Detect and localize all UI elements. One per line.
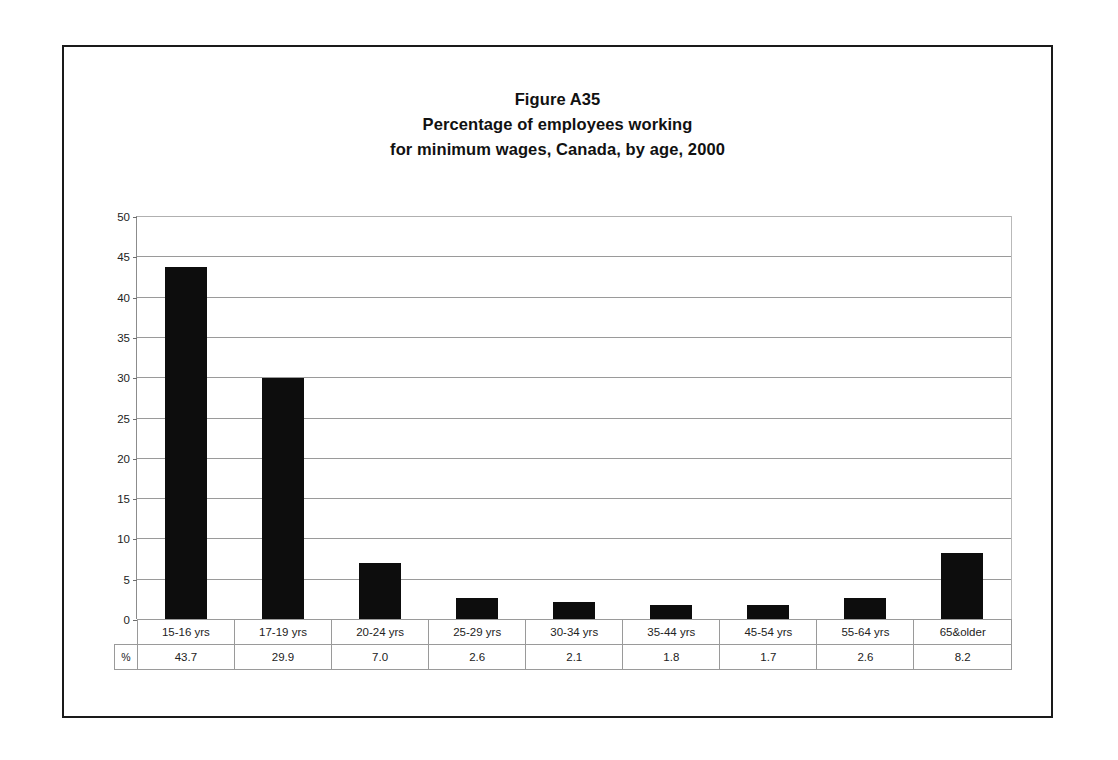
bar-slot-8: [914, 216, 1011, 619]
title-line-1: Figure A35: [64, 87, 1051, 112]
ytick-label-35: 35: [117, 332, 130, 344]
ytick-label-15: 15: [117, 493, 130, 505]
bar-slot-2: [331, 216, 428, 619]
bars-group: [137, 216, 1011, 619]
bar[interactable]: [941, 553, 983, 619]
title-line-3: for minimum wages, Canada, by age, 2000: [64, 137, 1051, 162]
bar-slot-6: [720, 216, 817, 619]
data-table: 15-16 yrs17-19 yrs20-24 yrs25-29 yrs30-3…: [114, 619, 1012, 670]
category-label-cell: 25-29 yrs: [429, 620, 526, 645]
bar[interactable]: [359, 563, 401, 619]
bar-slot-7: [817, 216, 914, 619]
bar-slot-1: [234, 216, 331, 619]
bar-slot-0: [137, 216, 234, 619]
plot-area: 05101520253035404550: [136, 216, 1012, 619]
value-cell: 29.9: [234, 645, 331, 670]
table-row-values: % 43.729.97.02.62.11.81.72.68.2: [115, 645, 1012, 670]
bar[interactable]: [747, 605, 789, 619]
category-label-cell: 65&older: [914, 620, 1012, 645]
category-label-cell: 15-16 yrs: [137, 620, 234, 645]
category-label-cell: 35-44 yrs: [623, 620, 720, 645]
bar[interactable]: [650, 605, 692, 620]
category-label-cell: 17-19 yrs: [234, 620, 331, 645]
value-cell: 2.6: [429, 645, 526, 670]
ytick-label-5: 5: [124, 574, 130, 586]
category-label-cell: 30-34 yrs: [526, 620, 623, 645]
ytick-label-30: 30: [117, 372, 130, 384]
chart-title: Figure A35 Percentage of employees worki…: [64, 87, 1051, 162]
value-cell: 8.2: [914, 645, 1012, 670]
table-corner-blank: [115, 620, 138, 645]
ytick-label-20: 20: [117, 453, 130, 465]
value-cell: 2.6: [817, 645, 914, 670]
category-label-cell: 45-54 yrs: [720, 620, 817, 645]
bar[interactable]: [553, 602, 595, 619]
ytick-label-50: 50: [117, 211, 130, 223]
value-cell: 2.1: [526, 645, 623, 670]
bar-slot-4: [525, 216, 622, 619]
ytick-label-10: 10: [117, 533, 130, 545]
value-cell: 7.0: [332, 645, 429, 670]
bar[interactable]: [844, 598, 886, 619]
figure-container: Figure A35 Percentage of employees worki…: [62, 45, 1053, 718]
bar[interactable]: [262, 378, 304, 619]
category-label-cell: 55-64 yrs: [817, 620, 914, 645]
value-cell: 1.7: [720, 645, 817, 670]
bar[interactable]: [456, 598, 498, 619]
bar-slot-5: [623, 216, 720, 619]
value-cell: 43.7: [137, 645, 234, 670]
category-label-cell: 20-24 yrs: [332, 620, 429, 645]
ytick-label-45: 45: [117, 251, 130, 263]
ytick-label-40: 40: [117, 292, 130, 304]
title-line-2: Percentage of employees working: [64, 112, 1051, 137]
bar[interactable]: [165, 267, 207, 619]
value-cell: 1.8: [623, 645, 720, 670]
bar-slot-3: [428, 216, 525, 619]
table-row-categories: 15-16 yrs17-19 yrs20-24 yrs25-29 yrs30-3…: [115, 620, 1012, 645]
ytick-label-25: 25: [117, 413, 130, 425]
unit-label-cell: %: [115, 645, 138, 670]
